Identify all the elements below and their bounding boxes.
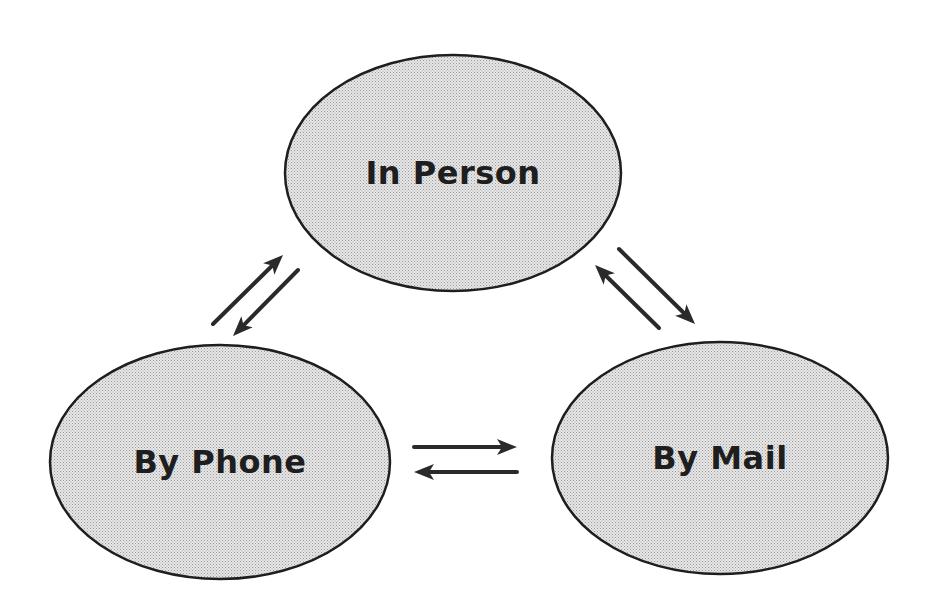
diagram-canvas [0, 0, 941, 607]
arrow-icon-by-mail-to-in-person [595, 265, 659, 328]
arrow-icon-in-person-to-by-mail [619, 249, 695, 324]
node-label-by-phone: By Phone [133, 443, 306, 481]
arrow-icon-by-phone-to-in-person [213, 255, 283, 324]
arrow-icon-in-person-to-by-phone [233, 270, 298, 336]
arrow-icon-by-phone-to-by-mail [414, 439, 517, 455]
node-label-in-person: In Person [365, 154, 540, 192]
arrow-icon-by-mail-to-by-phone [414, 464, 517, 480]
node-label-by-mail: By Mail [652, 439, 787, 477]
